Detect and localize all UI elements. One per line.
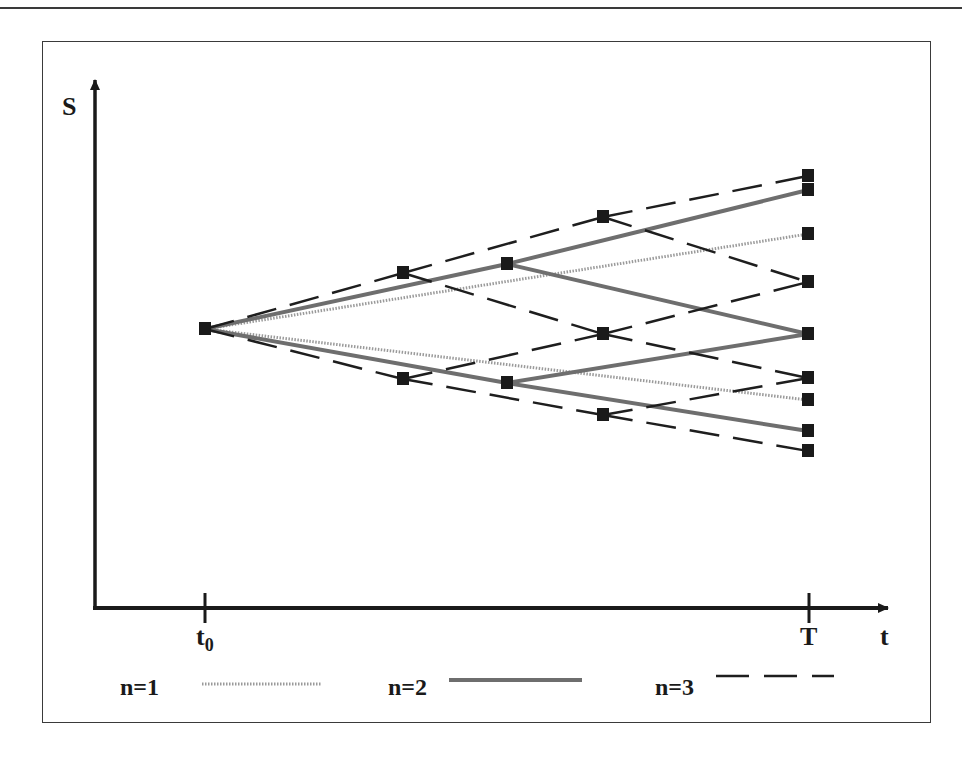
axes bbox=[93, 80, 888, 623]
tree-edge bbox=[205, 329, 808, 400]
tree-edge bbox=[507, 190, 808, 264]
tree-edge bbox=[603, 415, 808, 451]
tree-node bbox=[501, 376, 513, 389]
tree-edge bbox=[603, 217, 808, 282]
tick-t0-text: t bbox=[196, 622, 205, 651]
tick-label-t0: t0 bbox=[196, 624, 214, 654]
tree-node bbox=[802, 371, 814, 384]
tree-node bbox=[199, 322, 211, 335]
tree-edge bbox=[205, 329, 403, 379]
legend-label-n3: n=3 bbox=[655, 675, 694, 699]
tree-node bbox=[397, 266, 409, 279]
tree-edge bbox=[205, 329, 507, 383]
tree-edge bbox=[403, 273, 603, 334]
legend-swatches bbox=[202, 676, 834, 684]
tree-node bbox=[802, 183, 814, 196]
y-axis-label: S bbox=[62, 94, 76, 120]
legend-label-n1: n=1 bbox=[120, 675, 159, 699]
tree-node bbox=[802, 275, 814, 288]
tree-node bbox=[597, 327, 609, 340]
tree-edge bbox=[507, 264, 808, 334]
tick-label-T: T bbox=[800, 624, 817, 650]
legend-label-n2: n=2 bbox=[388, 675, 427, 699]
x-axis-label: t bbox=[880, 624, 889, 650]
tree-edge bbox=[507, 334, 808, 383]
tree-node bbox=[802, 169, 814, 182]
tree-node bbox=[802, 227, 814, 240]
tree-node bbox=[597, 210, 609, 223]
tick-t0-subscript: 0 bbox=[205, 635, 214, 655]
tree-node bbox=[802, 393, 814, 406]
tree-node bbox=[597, 408, 609, 421]
tree-node bbox=[802, 327, 814, 340]
tree-edge bbox=[205, 264, 507, 329]
tree-node bbox=[802, 424, 814, 437]
binomial-tree-diagram bbox=[0, 0, 972, 764]
tree-node bbox=[802, 444, 814, 457]
tree-node bbox=[397, 372, 409, 385]
tree-node bbox=[501, 257, 513, 270]
